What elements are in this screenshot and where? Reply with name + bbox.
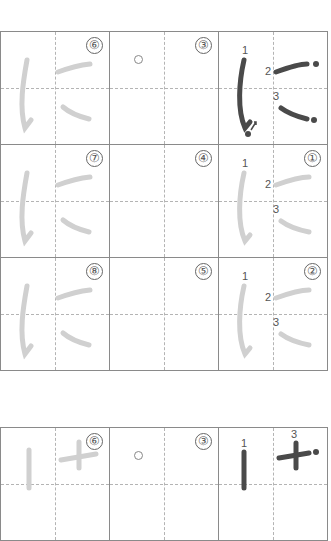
trace-cell-8: ⑧ — [1, 258, 110, 371]
trace-cell-6: ⑥ — [1, 428, 110, 541]
stroke-number-1: 1 — [241, 437, 247, 449]
cell-number-badge: ⑥ — [86, 37, 103, 54]
cell-number-badge: ⑥ — [86, 433, 103, 450]
trace-numbered-cell-2: 1 2 3 ② — [219, 258, 328, 371]
model-cell: 1 2 3 — [219, 32, 328, 145]
cell-number-badge: ① — [304, 150, 321, 167]
stroke-number-1: 1 — [242, 44, 248, 56]
stroke-number-2: 2 — [265, 178, 271, 190]
horizontal-guide — [110, 314, 218, 315]
cell-number-badge: ③ — [195, 433, 212, 450]
start-circle-icon — [134, 451, 143, 460]
model-character-icon — [219, 32, 328, 145]
stroke-number-3: 3 — [273, 316, 279, 328]
practice-grid-ni: ⑥ ③ 1 2 3 ⑦ — [0, 31, 328, 371]
blank-cell-3[interactable]: ③ — [110, 428, 219, 541]
horizontal-guide — [110, 201, 218, 202]
stroke-number-3: 3 — [273, 90, 279, 102]
cell-number-badge: ⑤ — [195, 263, 212, 280]
trace-cell-7: ⑦ — [1, 145, 110, 258]
stroke-number-2: 2 — [265, 65, 271, 77]
stroke-number-1: 1 — [242, 157, 248, 169]
trace-numbered-cell-1: 1 2 3 ① — [219, 145, 328, 258]
cell-number-badge: ⑧ — [86, 263, 103, 280]
horizontal-guide — [110, 88, 218, 89]
trace-cell-6: ⑥ — [1, 32, 110, 145]
model-cell: 1 3 — [219, 428, 328, 541]
stroke-number-3: 3 — [291, 428, 297, 440]
horizontal-guide — [110, 484, 218, 485]
model-character-icon — [219, 428, 328, 541]
cell-number-badge: ④ — [195, 150, 212, 167]
blank-cell-5[interactable]: ⑤ — [110, 258, 219, 371]
blank-cell-4[interactable]: ④ — [110, 145, 219, 258]
start-circle-icon — [134, 55, 143, 64]
cell-number-badge: ⑦ — [86, 150, 103, 167]
stroke-number-3: 3 — [273, 203, 279, 215]
stroke-number-2: 2 — [265, 291, 271, 303]
stroke-number-1: 1 — [242, 270, 248, 282]
practice-grid-next: ⑥ ③ 1 3 — [0, 427, 328, 541]
blank-cell-3[interactable]: ③ — [110, 32, 219, 145]
cell-number-badge: ② — [304, 263, 321, 280]
cell-number-badge: ③ — [195, 37, 212, 54]
